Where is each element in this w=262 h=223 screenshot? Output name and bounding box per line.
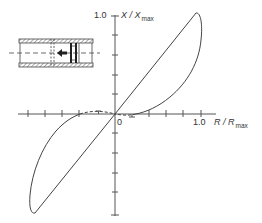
x-axis-right-tick-label: 1.0 [193, 118, 206, 127]
x-axis-label: R / Rmax [214, 118, 248, 127]
x-axis-label-var: R / R [214, 117, 235, 127]
loop-upper-right [115, 13, 202, 115]
y-axis-top-tick-label: 1.0 [94, 11, 107, 20]
pipe-piston-icon [9, 39, 100, 67]
loop-lower-left [30, 111, 115, 213]
y-axis [111, 15, 119, 216]
x-axis-label-sub: max [236, 122, 248, 129]
y-axis-label-var: X / X [121, 10, 141, 20]
y-axis-label: X / Xmax [121, 11, 154, 20]
origin-label: 0 [117, 118, 122, 127]
y-axis-label-sub: max [142, 15, 154, 22]
diagram-figure: 1.0 X / Xmax 0 1.0 R / Rmax [0, 0, 262, 223]
